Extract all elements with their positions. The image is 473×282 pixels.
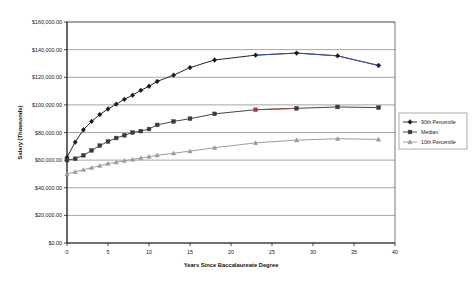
x-tick-label: 25 [269,249,275,255]
x-tick-label: 30 [310,249,316,255]
data-point [114,136,118,140]
y-tick-label: $100,000.00 [32,102,62,108]
data-point [65,158,69,162]
salary-percentile-line-chart: $0.00$20,000.00$40,000.00$60,000.00$80,0… [0,0,473,282]
y-tick-label: $140,000.00 [32,47,62,53]
legend-label: 90th Percentile [421,119,456,125]
y-axis-title: Salary (Thousands) [17,106,23,160]
data-point [98,144,102,148]
y-axis: $0.00$20,000.00$40,000.00$60,000.00$80,0… [32,19,67,246]
y-tick-label: $120,000.00 [32,74,62,80]
x-axis: 0510152025303540 [66,243,399,255]
x-tick-label: 15 [187,249,193,255]
y-tick-label: $60,000.00 [35,157,62,163]
data-point [336,105,340,109]
x-axis-title: Years Since Baccalaureate Degree [184,262,280,268]
data-point [73,157,77,161]
y-tick-label: $80,000.00 [35,130,62,136]
data-point [139,129,143,133]
data-point [147,127,151,131]
x-tick-label: 5 [107,249,110,255]
data-point [90,149,94,153]
data-point [377,106,381,110]
data-point [106,140,110,144]
legend: 90th PercentileMedian10th Percentile [399,113,467,149]
data-point [295,106,299,110]
x-tick-label: 40 [392,249,398,255]
data-point [188,117,192,121]
data-point [131,131,135,135]
y-tick-label: $160,000.00 [32,19,62,25]
legend-label: Median [421,129,438,135]
legend-label: 10th Percentile [421,139,456,145]
x-tick-label: 0 [66,249,69,255]
data-point [155,123,159,127]
x-tick-label: 20 [228,249,234,255]
chart-canvas: $0.00$20,000.00$40,000.00$60,000.00$80,0… [0,0,473,282]
data-point [123,133,127,137]
y-tick-label: $0.00 [49,240,63,246]
data-point [254,108,258,112]
legend-marker [408,130,412,134]
data-point [172,120,176,124]
x-tick-label: 35 [351,249,357,255]
y-tick-label: $40,000.00 [35,185,62,191]
x-tick-label: 10 [146,249,152,255]
y-tick-label: $20,000.00 [35,212,62,218]
data-point [82,153,86,157]
data-point [213,112,217,116]
